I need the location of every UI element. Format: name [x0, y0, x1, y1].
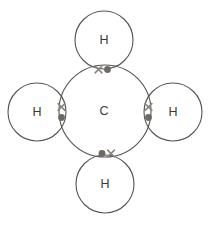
bond-left-electron-dot-icon — [58, 114, 65, 121]
bond-top-electron-cross-icon — [95, 66, 102, 73]
atom-label-carbon: C — [99, 104, 108, 118]
atom-label-hydrogen-left: H — [32, 105, 41, 119]
bond-bottom-electron-dot-icon — [99, 150, 106, 157]
atom-label-hydrogen-top: H — [99, 33, 108, 47]
atom-label-hydrogen-right: H — [168, 105, 177, 119]
methane-molecule-svg: H H H H C — [0, 0, 211, 225]
bond-right-electron-dot-icon — [145, 114, 152, 121]
dot-and-cross-diagram: H H H H C — [0, 0, 211, 225]
bond-top-electron-dot-icon — [104, 66, 111, 73]
atom-label-hydrogen-bottom: H — [100, 177, 109, 191]
